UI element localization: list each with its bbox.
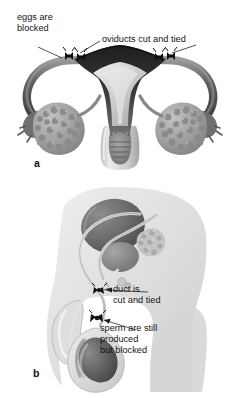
- label-eggs-are-blocked-line2: blocked: [17, 23, 49, 33]
- label-sperm-line3: but blocked: [100, 345, 147, 355]
- panel-letter-b: b: [33, 367, 39, 379]
- label-duct-is-line1: duct is: [113, 284, 140, 294]
- label-sperm-line2: produced: [100, 334, 138, 344]
- sterilization-figure: eggs are blocked oviducts cut and tied a: [0, 0, 240, 398]
- cervix: [109, 127, 132, 165]
- label-sperm-line1: sperm are still: [100, 323, 157, 333]
- panel-letter-a: a: [34, 157, 40, 169]
- label-oviducts-cut-and-tied: oviducts cut and tied: [102, 34, 186, 44]
- label-duct-is-line2: cut and tied: [113, 295, 161, 305]
- label-eggs-are-blocked-line1: eggs are: [17, 12, 53, 22]
- seminal-vesicle: [137, 229, 166, 257]
